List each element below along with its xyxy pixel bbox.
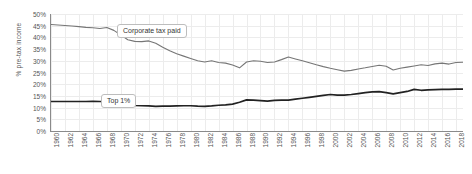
x-tick-label: 1982: [207, 133, 214, 147]
x-tick-label: 1998: [318, 133, 325, 147]
line-corporate-tax-paid: [51, 25, 463, 72]
y-tick-label: 50%: [33, 11, 46, 18]
x-tick-label: 2010: [402, 133, 409, 147]
y-tick-label: 40%: [33, 34, 46, 41]
y-tick-label: 0%: [37, 128, 46, 135]
x-tick-label: 1996: [304, 133, 311, 147]
x-tick-label: 2012: [416, 133, 423, 147]
plot-area: [50, 14, 463, 132]
x-tick-label: 2002: [346, 133, 353, 147]
x-tick-label: 2014: [430, 133, 437, 147]
annotation-top-1-percent: Top 1%: [101, 94, 136, 108]
y-tick-label: 30%: [33, 57, 46, 64]
chart-figure: % pre-tax income 50%45%40%35%30%25%20%15…: [0, 0, 472, 174]
x-tick-label: 2008: [388, 133, 395, 147]
x-tick-label: 1988: [249, 133, 256, 147]
x-tick-label: 1994: [290, 133, 297, 147]
x-tick-label: 1980: [193, 133, 200, 147]
y-tick-label: 10%: [33, 104, 46, 111]
x-axis-ticks: 1960196219641966196819701972197419761978…: [50, 133, 462, 174]
y-tick-label: 35%: [33, 46, 46, 53]
x-tick-label: 1960: [53, 133, 60, 147]
y-tick-label: 20%: [33, 81, 46, 88]
x-tick-label: 1974: [151, 133, 158, 147]
x-tick-label: 1968: [109, 133, 116, 147]
y-tick-label: 5%: [37, 116, 46, 123]
x-tick-label: 2016: [444, 133, 451, 147]
series-layer: [51, 14, 463, 131]
x-tick-label: 1972: [137, 133, 144, 147]
x-tick-label: 1992: [276, 133, 283, 147]
x-tick-label: 1962: [67, 133, 74, 147]
x-tick-label: 1990: [262, 133, 269, 147]
x-tick-label: 1966: [95, 133, 102, 147]
annotation-corporate-tax-paid: Corporate tax paid: [117, 24, 187, 38]
x-tick-label: 1984: [221, 133, 228, 147]
x-tick-label: 2006: [374, 133, 381, 147]
y-tick-label: 45%: [33, 22, 46, 29]
y-tick-label: 15%: [33, 92, 46, 99]
x-tick-label: 2000: [332, 133, 339, 147]
x-tick-label: 1964: [81, 133, 88, 147]
x-tick-label: 2018: [458, 133, 465, 147]
y-axis-ticks: 50%45%40%35%30%25%20%15%10%5%0%: [0, 0, 50, 174]
x-tick-label: 1970: [123, 133, 130, 147]
x-tick-label: 1986: [235, 133, 242, 147]
x-tick-label: 1976: [165, 133, 172, 147]
x-tick-label: 2004: [360, 133, 367, 147]
y-tick-label: 25%: [33, 69, 46, 76]
x-tick-label: 1978: [179, 133, 186, 147]
